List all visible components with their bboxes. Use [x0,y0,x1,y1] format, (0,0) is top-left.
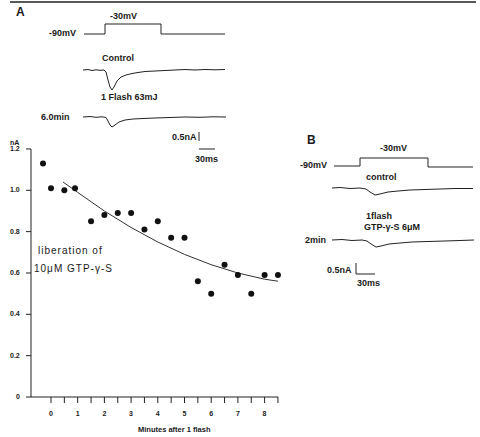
data-point [182,235,188,241]
data-point [141,227,147,233]
panel-a-later-trace [83,117,226,128]
panel-a-scale-time: 30ms [195,155,218,164]
panel-b-drug-label: GTP-γ-S 6μM [364,223,420,232]
x-ticks [51,397,278,403]
panel-a-voltage-high: -30mV [110,12,137,21]
y-ticks [26,149,31,397]
y-tick-label: 0.4 [10,310,20,317]
panel-a-later-label: 6.0min [41,113,70,122]
x-tick-label: 1 [76,410,80,417]
data-point [61,187,67,193]
x-tick-label: 2 [102,410,106,417]
x-tick-label: 4 [156,410,160,417]
panel-b-control-label: control [366,173,397,182]
panel-b-control-trace [332,188,473,196]
x-tick-label: 8 [263,410,267,417]
data-point [48,185,54,191]
x-tick-label: 5 [183,410,187,417]
panel-a-voltage-low: -90mV [49,29,76,38]
x-tick-label: 3 [129,410,133,417]
data-point [222,262,228,268]
y-tick-label: 0.8 [10,228,20,235]
data-point [115,210,121,216]
data-point [101,212,107,218]
x-tick-label: 7 [236,410,240,417]
figure: A -30mV -90mV Control 1 Flash 63mJ 6.0mi… [0,0,480,437]
data-point [195,278,201,284]
panel-a-voltage-step [84,24,225,34]
panel-a-scale-current: 0.5nA [172,133,197,142]
panel-b-voltage-high: -30mV [380,144,407,153]
data-point [208,291,214,297]
panel-b-scale-current: 0.5nA [327,266,352,275]
panel-b-voltage-low: -90mV [300,161,327,170]
y-tick-label: 0.6 [10,269,20,276]
data-point [40,160,46,166]
panel-b-later-trace [332,240,474,248]
data-points [40,160,281,296]
x-tick-label: 0 [49,410,53,417]
data-point [248,291,254,297]
panel-b-scale-time: 30ms [357,279,380,288]
panel-a-letter: A [16,6,25,18]
panel-a-flash-label: 1 Flash 63mJ [101,93,158,102]
panel-b-flash-label: 1flash [366,212,392,221]
y-tick-label: 1.0 [10,186,20,193]
data-point [88,218,94,224]
chart-annotation-line2: 10μM GTP-γ-S [34,264,113,274]
panel-b-later-label: 2min [305,236,326,245]
panel-b-letter: B [307,134,316,146]
data-point [155,218,161,224]
data-point [275,272,281,278]
data-point [72,185,78,191]
figure-graphics [0,0,480,437]
x-axis-title: Minutes after 1 flash [138,426,211,434]
data-point [235,272,241,278]
panel-b-voltage-step [334,158,473,167]
chart-annotation-line1: liberation of [38,246,103,256]
y-tick-label: 1.2 [10,145,20,152]
data-point [128,210,134,216]
panel-a-control-trace [83,70,225,91]
panel-a-control-label: Control [102,54,134,63]
data-point [262,272,268,278]
y-tick-label: 0 [16,393,20,400]
x-tick-label: 6 [209,410,213,417]
data-point [168,235,174,241]
y-tick-label: 0.2 [10,352,20,359]
